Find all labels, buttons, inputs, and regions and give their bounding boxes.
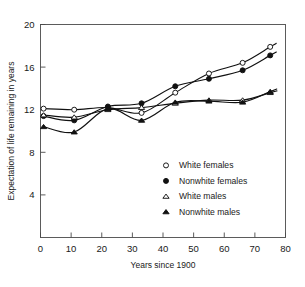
x-tick-label: 0 [38, 243, 43, 254]
x-tick-label: 50 [188, 243, 199, 254]
y-tick-label: 8 [29, 147, 34, 158]
x-axis-title: Years since 1900 [131, 260, 196, 270]
x-axis-ticks: 01020304050607080 [38, 233, 291, 254]
data-point-marker [164, 178, 169, 183]
line-chart: 48121620 01020304050607080 Years since 1… [0, 0, 305, 287]
data-point-marker [268, 44, 273, 49]
data-point-marker [268, 53, 273, 58]
x-tick-label: 60 [219, 243, 230, 254]
data-point-marker [164, 163, 169, 168]
data-point-marker [40, 124, 46, 128]
x-tick-label: 40 [158, 243, 169, 254]
legend-label: Nonwhite females [179, 176, 247, 186]
data-point-marker [139, 110, 144, 115]
legend-label: White males [179, 191, 226, 201]
y-tick-label: 16 [24, 62, 35, 73]
y-tick-label: 20 [24, 19, 35, 30]
data-point-marker [163, 194, 169, 198]
x-tick-label: 10 [66, 243, 77, 254]
legend-item: Nonwhite females [164, 176, 248, 186]
x-tick-label: 30 [127, 243, 138, 254]
chart-container: 48121620 01020304050607080 Years since 1… [0, 0, 305, 287]
legend: White femalesNonwhite femalesWhite males… [163, 160, 247, 217]
x-tick-label: 70 [250, 243, 261, 254]
data-point-marker [163, 210, 169, 214]
legend-label: Nonwhite males [179, 207, 240, 217]
data-point-marker [72, 107, 77, 112]
data-point-marker [173, 84, 178, 89]
legend-item: White females [164, 160, 234, 170]
data-point-marker [267, 89, 273, 93]
data-point-marker [173, 90, 178, 95]
legend-item: Nonwhite males [163, 207, 240, 217]
x-tick-label: 80 [280, 243, 291, 254]
y-tick-label: 4 [29, 189, 34, 200]
series-line [44, 89, 277, 133]
data-point-marker [240, 68, 245, 73]
data-point-marker [206, 71, 211, 76]
data-point-marker [240, 60, 245, 65]
data-point-marker [71, 130, 77, 134]
y-axis-title: Expectation of life remaining in years [6, 62, 16, 201]
series-layer [40, 43, 276, 134]
data-point-marker [206, 76, 211, 81]
legend-label: White females [179, 160, 233, 170]
x-tick-label: 20 [96, 243, 107, 254]
y-tick-label: 12 [24, 104, 35, 115]
legend-item: White males [163, 191, 226, 201]
data-point-marker [41, 106, 46, 111]
